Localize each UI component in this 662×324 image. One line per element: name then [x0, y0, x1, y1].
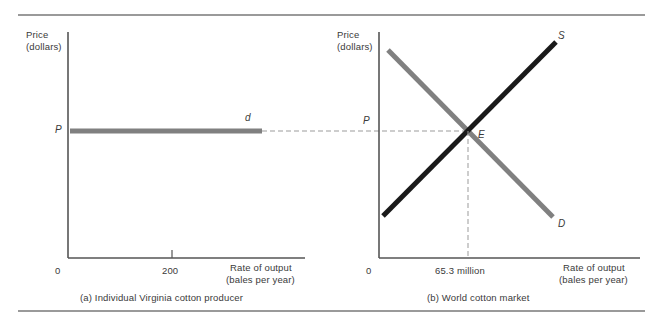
- economics-figure: Price (dollars) P d 0 200 Rate of output…: [0, 0, 662, 324]
- panel-b-x-axis-label-line1: Rate of output: [563, 262, 625, 274]
- panel-b-x-tick-label: 65.3 million: [435, 265, 485, 277]
- panel-b-y-axis-label-line2: (dollars): [337, 41, 373, 53]
- panel-b-y-axis-label-line1: Price: [337, 29, 359, 41]
- panel-b-axes: [379, 32, 640, 258]
- panel-b-caption: (b) World cotton market: [427, 292, 530, 304]
- panel-b-equilibrium-label-E: E: [478, 129, 485, 141]
- panel-a-axes: [68, 32, 305, 258]
- panel-a-x-axis-label-line1: Rate of output: [230, 262, 292, 274]
- panel-a-curve-label-d: d: [245, 112, 251, 124]
- panel-a-x-tick-label: 200: [162, 265, 178, 277]
- panel-a-origin-label: 0: [55, 265, 60, 277]
- panel-a-y-axis-label-line1: Price: [26, 29, 48, 41]
- panel-b-demand-curve-D: [388, 50, 553, 217]
- panel-b-origin-label: 0: [366, 265, 371, 277]
- panel-b-supply-label-S: S: [558, 30, 565, 42]
- panel-a-price-label: P: [55, 124, 62, 136]
- panel-b-price-label: P: [363, 115, 370, 127]
- panel-a-x-axis-label-line2: (bales per year): [226, 274, 295, 286]
- panel-b-x-axis-label-line2: (bales per year): [559, 274, 628, 286]
- panel-a-caption: (a) Individual Virginia cotton producer: [80, 292, 243, 304]
- panel-b-demand-label-D: D: [558, 218, 565, 230]
- panel-a-y-axis-label-line2: (dollars): [26, 41, 62, 53]
